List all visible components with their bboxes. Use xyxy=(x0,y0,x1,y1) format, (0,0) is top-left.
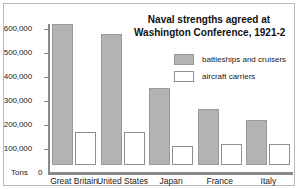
y-axis-tick xyxy=(44,125,49,126)
chart-legend: battleships and cruisers aircraft carrie… xyxy=(174,53,286,87)
y-axis-tick xyxy=(44,53,49,54)
y-axis-tick xyxy=(44,29,49,30)
chart-title-line-1: Naval strengths agreed at xyxy=(134,14,284,27)
legend-label-carriers: aircraft carriers xyxy=(202,72,255,81)
bar-carriers xyxy=(75,132,96,165)
y-axis-zero-label: 0 xyxy=(38,169,42,177)
legend-swatch-battleships-icon xyxy=(174,54,194,65)
bar-battleships xyxy=(101,34,122,165)
chart-title: Naval strengths agreed at Washington Con… xyxy=(134,14,284,39)
legend-swatch-carriers-icon xyxy=(174,71,194,82)
y-axis-tick-label: 400,000 xyxy=(0,73,32,81)
y-axis-tick xyxy=(44,77,49,78)
y-axis-tick-label: 600,000 xyxy=(0,25,32,33)
bar-carriers xyxy=(221,144,242,165)
y-axis-tick-label: 200,000 xyxy=(0,121,32,129)
y-axis-tick xyxy=(44,149,49,150)
x-axis-line xyxy=(48,172,293,175)
y-axis-line xyxy=(48,24,50,174)
bar-battleships xyxy=(149,88,170,165)
bar-battleships xyxy=(198,109,219,165)
y-axis-tick-label: 500,000 xyxy=(0,49,32,57)
y-axis-tick xyxy=(44,101,49,102)
legend-item-carriers: aircraft carriers xyxy=(174,70,286,83)
x-axis-category-label: Italy xyxy=(238,176,298,186)
chart-figure: 100,000200,000300,000400,000500,000600,0… xyxy=(0,0,298,189)
chart-frame: 100,000200,000300,000400,000500,000600,0… xyxy=(3,3,295,186)
y-axis-tick-label: 100,000 xyxy=(0,145,32,153)
bar-battleships xyxy=(246,120,267,165)
y-axis-unit-label: Tons xyxy=(11,169,28,177)
bar-battleships xyxy=(52,24,73,165)
bar-carriers xyxy=(124,132,145,165)
chart-title-line-2: Washington Conference, 1921-2 xyxy=(134,27,284,40)
bar-carriers xyxy=(172,146,193,165)
legend-item-battleships: battleships and cruisers xyxy=(174,53,286,66)
bar-carriers xyxy=(269,144,290,165)
legend-label-battleships: battleships and cruisers xyxy=(202,55,286,64)
y-axis-tick-label: 300,000 xyxy=(0,97,32,105)
